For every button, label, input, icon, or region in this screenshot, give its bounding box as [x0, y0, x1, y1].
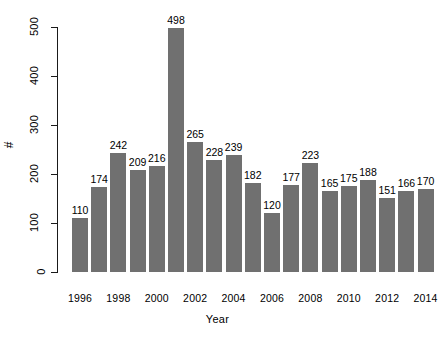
- bar: [130, 170, 146, 272]
- bar-value-label: 216: [142, 153, 172, 164]
- bar-value-label: 174: [84, 174, 114, 185]
- x-axis-tick-label: 2008: [290, 293, 330, 304]
- x-axis-tick-label: 1996: [60, 293, 100, 304]
- x-axis-tick-label: 2010: [329, 293, 369, 304]
- bar: [168, 28, 184, 272]
- bar-value-label: 182: [238, 170, 268, 181]
- y-axis-tick-label: 200: [0, 168, 44, 179]
- x-axis-tick-label: 1998: [98, 293, 138, 304]
- bar: [245, 183, 261, 272]
- bar: [91, 187, 107, 272]
- bar-value-label: 188: [353, 167, 383, 178]
- bar: [264, 213, 280, 272]
- bar: [149, 166, 165, 272]
- bar: [341, 186, 357, 272]
- bar: [398, 191, 414, 272]
- y-axis-tick-label: 500: [0, 21, 44, 32]
- x-axis-tick-label: 2006: [252, 293, 292, 304]
- bar: [283, 185, 299, 272]
- bar-value-label: 239: [219, 142, 249, 153]
- x-axis-tick-label: 2002: [175, 293, 215, 304]
- bar-value-label: 170: [411, 176, 441, 187]
- y-axis-title: #: [3, 142, 15, 149]
- bar-value-label: 242: [103, 140, 133, 151]
- x-axis-tick-label: 2012: [367, 293, 407, 304]
- bar-value-label: 120: [257, 200, 287, 211]
- bar: [379, 198, 395, 272]
- x-axis-title: Year: [0, 313, 435, 325]
- bar: [322, 191, 338, 272]
- bar: [187, 142, 203, 272]
- x-axis-tick-label: 2004: [214, 293, 254, 304]
- bar: [72, 218, 88, 272]
- bar: [206, 160, 222, 272]
- bar: [418, 189, 434, 272]
- y-axis-tick-label: 100: [0, 217, 44, 228]
- bar-value-label: 223: [295, 150, 325, 161]
- y-axis-tick-label: 0: [0, 266, 44, 277]
- plot-area: 1101742422092164982652282391821201772231…: [57, 10, 435, 273]
- bar-value-label: 110: [65, 205, 95, 216]
- y-axis-tick-label: 400: [0, 70, 44, 81]
- bar: [110, 153, 126, 272]
- bar-value-label: 177: [276, 172, 306, 183]
- bar-value-label: 265: [180, 129, 210, 140]
- y-axis-tick-label: 300: [0, 119, 44, 130]
- x-axis-tick-label: 2000: [137, 293, 177, 304]
- bar-value-label: 498: [161, 15, 191, 26]
- x-axis-tick-label: 2014: [406, 293, 442, 304]
